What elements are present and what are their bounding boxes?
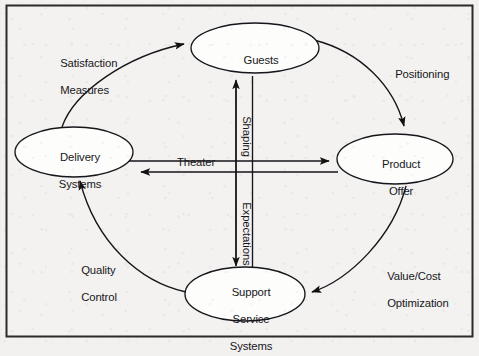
edge-label-shaping: Shaping <box>226 104 266 157</box>
edge-label-positioning: Positioning <box>383 55 449 95</box>
edge-label-quality-control: Quality Control <box>69 251 117 318</box>
node-label-support-service-systems: Support Service Systems <box>195 273 295 356</box>
node-label-delivery-systems: Delivery Systems <box>24 138 124 205</box>
edge-label-satisfaction-measures: Satisfaction Measures <box>48 44 117 111</box>
node-label-product-offer: Product Offer <box>345 145 445 212</box>
edge-label-theater: Theater <box>165 143 215 183</box>
node-label-guests: Guests <box>205 41 305 81</box>
edge-label-expectations: Expectations <box>226 190 266 266</box>
edge-label-value-cost-optimization: Value/Cost Optimization <box>375 257 449 324</box>
